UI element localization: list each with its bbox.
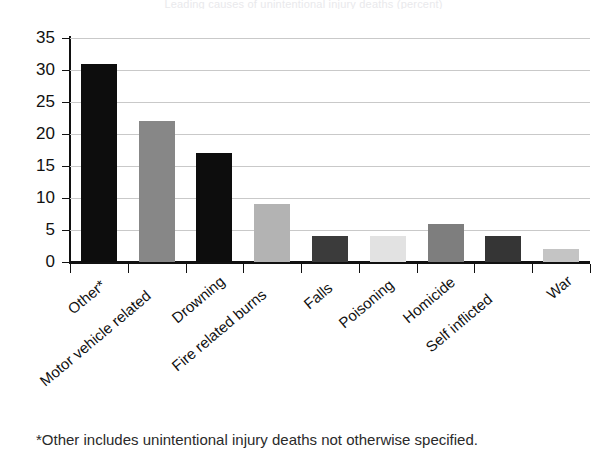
bar [485, 236, 521, 262]
bar [428, 224, 464, 262]
y-tick-label: 5 [15, 221, 55, 238]
y-tick-label: 25 [15, 93, 55, 110]
x-tick-mark [532, 264, 533, 273]
bar-chart: Leading causes of unintentional injury d… [0, 0, 607, 449]
y-tick-label: 30 [15, 61, 55, 78]
y-tick-label: 10 [15, 189, 55, 206]
x-axis-label: Other* [65, 277, 108, 316]
y-tick-label: 20 [15, 125, 55, 142]
bar [312, 236, 348, 262]
x-tick-mark [243, 264, 244, 273]
y-tick-label: 0 [15, 253, 55, 270]
bar [370, 236, 406, 262]
y-tick-mark [62, 166, 70, 167]
x-tick-mark [186, 264, 187, 273]
clipped-title-remnant: Leading causes of unintentional injury d… [0, 0, 607, 9]
y-tick-mark [62, 70, 70, 71]
y-tick-mark [62, 134, 70, 135]
x-axis-label: Poisoning [336, 277, 396, 331]
x-tick-mark [128, 264, 129, 273]
x-axis-label: Homicide [400, 274, 458, 326]
y-tick-mark [62, 38, 70, 39]
chart-footnote: *Other includes unintentional injury dea… [36, 430, 596, 449]
y-tick-label: 15 [15, 157, 55, 174]
bar [254, 204, 290, 262]
x-axis-label: Motor vehicle related [37, 287, 153, 388]
y-tick-mark [62, 262, 70, 263]
y-tick-mark [62, 230, 70, 231]
bar [139, 121, 175, 262]
x-tick-mark [590, 264, 591, 273]
y-tick-mark [62, 102, 70, 103]
bar [543, 249, 579, 262]
plot-area [70, 38, 590, 262]
bar [196, 153, 232, 262]
y-tick-label: 35 [15, 29, 55, 46]
x-axis-label: War [544, 273, 574, 302]
x-tick-mark [359, 264, 360, 273]
y-tick-mark [62, 198, 70, 199]
x-tick-mark [417, 264, 418, 273]
x-axis-label: Falls [301, 280, 335, 312]
x-tick-mark [301, 264, 302, 273]
bar [81, 64, 117, 262]
x-tick-mark [70, 264, 71, 273]
x-tick-mark [474, 264, 475, 273]
